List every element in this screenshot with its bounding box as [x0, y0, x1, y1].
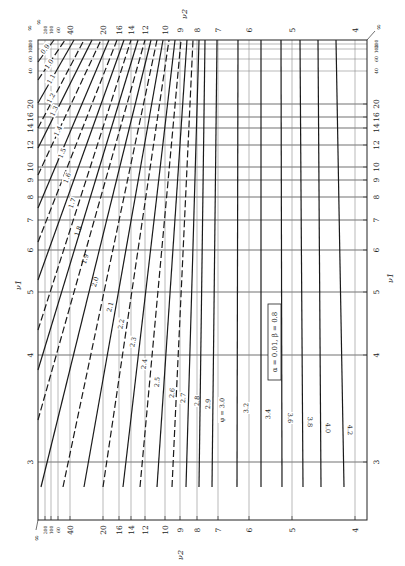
nu1-tick-label-left: 6 [26, 247, 35, 252]
nu1-tick-label-right: 7 [372, 217, 381, 222]
nu2-tick-label-top: 200 [43, 26, 48, 35]
phi-curve [300, 40, 303, 487]
nu1-infinity-top-left: ∞ [25, 25, 34, 31]
nu2-tick-label-bottom: 12 [141, 525, 150, 535]
nu1-tick-label-left: 60 [28, 56, 33, 62]
phi-curve-label: 3.4 [264, 409, 272, 419]
nu1-tick-label-right: 12 [372, 140, 381, 150]
phi-curve-label: 1.1 [45, 73, 57, 86]
nu1-tick-label-right: 60 [374, 56, 379, 62]
nu2-tick-label-top: 7 [214, 27, 223, 32]
nu1-tick-label-right: 6 [372, 247, 381, 252]
nu1-tick-label-left: 5 [26, 289, 35, 294]
phi-curve [281, 40, 282, 487]
phi-curve-label: 2.9 [204, 399, 212, 410]
phi-curve-label: 3.8 [306, 417, 314, 427]
nu1-tick-label-right: 10 [372, 162, 381, 172]
nu1-tick-label-right: 14 [372, 123, 381, 133]
nu2-tick-label-top: 40 [66, 25, 75, 35]
phi-curve-label: 4.0 [324, 423, 332, 433]
nu1-tick-label-left: 14 [26, 123, 35, 133]
nu2-tick-label-top: 12 [141, 25, 150, 35]
nu2-tick-label-bottom: 6 [245, 527, 254, 532]
chart-grid [36, 31, 375, 530]
nu2-tick-label-top: 9 [176, 27, 185, 32]
nu2-tick-label-top: 6 [245, 27, 254, 32]
phi-curve [212, 40, 217, 487]
phi-curve [336, 40, 344, 487]
phi-curve-label: 2.7 [179, 393, 188, 404]
phi-curve-label: 3.2 [242, 403, 250, 413]
phi-curve-label: φ = 3.0 [218, 398, 226, 423]
nu2-tick-label-bottom: 8 [193, 527, 202, 532]
nu2-tick-label-top: 16 [115, 25, 124, 35]
phi-curve [140, 40, 181, 487]
nu2-tick-label-bottom: 200 [43, 526, 48, 535]
nu1-tick-label-left: 40 [28, 68, 33, 74]
nu2-infinity-bottom: ∞ [32, 535, 41, 541]
nu1-tick-label-left: 10 [26, 162, 35, 172]
phi-curve [199, 40, 205, 487]
nu1-tick-label-right: 40 [374, 68, 379, 74]
nu2-tick-label-bottom: 40 [66, 525, 75, 535]
nu2-tick-label-top: 8 [193, 27, 202, 32]
nu2-tick-label-bottom: 20 [99, 525, 108, 535]
plot-frame [38, 40, 367, 520]
nu1-tick-label-right: 9 [372, 177, 381, 182]
nu1-tick-label-left: 8 [26, 194, 35, 199]
nu2-tick-label-bottom: 10 [161, 525, 170, 535]
nu1-axis-title-left: ν1 [14, 280, 23, 290]
phi-curve-label: 3.6 [286, 413, 294, 423]
annotation-text: α = 0.01, β = 0.8 [271, 312, 279, 373]
nu1-tick-label-right: 100 [374, 45, 379, 54]
phi-curve-label: 2.3 [128, 336, 138, 348]
annotation-box: α = 0.01, β = 0.8 [268, 304, 281, 380]
phi-curves: 0.91.01.11.21.31.41.51.61.71.81.92.02.12… [38, 40, 354, 487]
phi-curve-label: 2.4 [140, 358, 149, 369]
nu1-tick-label-left: 7 [26, 217, 35, 222]
nu1-tick-label-left: 9 [26, 177, 35, 182]
nu1-tick-label-left: 3 [26, 459, 35, 464]
nu1-axis-title-right: ν1 [386, 273, 395, 283]
nu1-infinity-top-right: ∞ [374, 24, 383, 30]
nu1-tick-label-right: 20 [372, 99, 381, 109]
phi-curve-label: 4.2 [346, 425, 354, 435]
phi-curve-label: 2.6 [168, 388, 177, 399]
phi-curve [103, 40, 169, 487]
nu2-tick-label-top: 10 [161, 25, 170, 35]
nu1-tick-label-left: 4 [26, 352, 35, 357]
nu2-tick-label-bottom: 4 [351, 527, 360, 532]
nu1-tick-label-right: 5 [372, 289, 381, 294]
nu2-tick-label-top: 4 [351, 27, 360, 32]
power-function-chart: 0.91.01.11.21.31.41.51.61.71.81.92.02.12… [0, 0, 405, 566]
nu2-tick-label-top: 60 [56, 27, 61, 33]
phi-curve [318, 40, 321, 487]
nu2-tick-label-top: 5 [288, 27, 297, 32]
phi-curve [237, 40, 238, 487]
nu1-tick-label-right: 16 [372, 112, 381, 122]
nu1-tick-label-left: 20 [26, 99, 35, 109]
phi-curve-label: 0.9 [39, 43, 52, 56]
nu1-tick-label-right: 4 [372, 352, 381, 357]
nu1-tick-label-right: 8 [372, 194, 381, 199]
nu2-tick-label-top: 14 [127, 25, 136, 35]
nu2-tick-label-bottom: 16 [115, 525, 124, 535]
nu2-axis-title-bottom: ν2 [176, 550, 185, 560]
phi-curve-label: 2.2 [116, 318, 126, 330]
nu2-infinity-top: ∞ [34, 19, 43, 25]
nu2-tick-label-top: 100 [49, 26, 54, 35]
phi-curve-label: 2.1 [105, 301, 115, 313]
nu2-tick-label-bottom: 9 [176, 527, 185, 532]
phi-curve-label: 2.5 [153, 376, 162, 387]
nu2-tick-label-bottom: 60 [56, 527, 61, 533]
nu2-tick-label-bottom: 14 [127, 525, 136, 535]
nu1-tick-label-left: 12 [26, 140, 35, 150]
nu1-tick-label-right: 3 [372, 459, 381, 464]
nu2-axis-title-top: ν2 [180, 9, 189, 19]
nu2-tick-label-bottom: 100 [49, 526, 54, 535]
nu2-tick-label-bottom: 5 [288, 527, 297, 532]
nu2-tick-label-top: 20 [99, 25, 108, 35]
nu1-tick-label-left: 100 [28, 45, 33, 54]
nu2-tick-label-bottom: 7 [214, 527, 223, 532]
nu1-tick-label-left: 16 [26, 112, 35, 122]
